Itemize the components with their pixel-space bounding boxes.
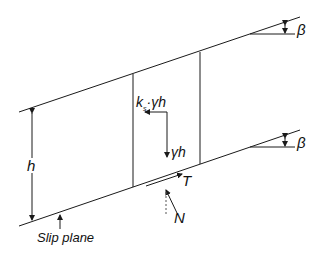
slip-plane-line (19, 130, 300, 226)
normal-force-label: N (174, 210, 185, 225)
slip-plane-label: Slip plane (37, 231, 94, 244)
shear-force-label: T (182, 173, 191, 188)
diagram-lines (0, 0, 321, 261)
seismic-force-label: ks·γh (136, 95, 166, 112)
beta-top-label: β (297, 22, 306, 37)
weight-label: γh (171, 145, 186, 159)
shear-force-arrow (146, 174, 182, 186)
slope-diagram: β β ks·γh γh h T N Slip plane (0, 0, 321, 261)
beta-bottom-label: β (297, 135, 306, 150)
height-label: h (27, 158, 35, 173)
